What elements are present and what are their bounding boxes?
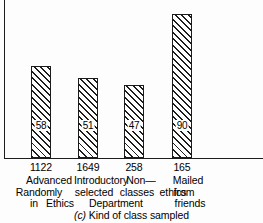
bar-value-label: 47 — [128, 120, 141, 131]
bar: 51 — [78, 78, 98, 158]
category-label-line-1: AdvancedIntroductoryNon—Mailed — [0, 175, 263, 187]
bar: 90 — [172, 14, 192, 158]
bar: 58 — [31, 66, 51, 158]
bar-value-label: 51 — [82, 120, 95, 131]
category-label-word: Mailed — [165, 175, 211, 187]
bar: 47 — [124, 85, 144, 158]
caption-tag: (c) — [74, 209, 86, 221]
x-axis-line — [4, 158, 263, 159]
category-label-word: Non— — [119, 175, 163, 187]
category-label-block: AdvancedIntroductoryNon—Mailed Randomlys… — [0, 175, 263, 210]
bar-chart-figure: 58514790 11221649258165 AdvancedIntroduc… — [0, 0, 263, 223]
bar-value-label: 90 — [176, 120, 189, 131]
figure-caption: (c) Kind of class sampled — [0, 209, 263, 221]
x-tick-label: 165 — [152, 161, 212, 173]
y-axis-line — [4, 0, 5, 159]
bar-value-label: 58 — [35, 120, 48, 131]
caption-text: Kind of class sampled — [89, 209, 189, 221]
